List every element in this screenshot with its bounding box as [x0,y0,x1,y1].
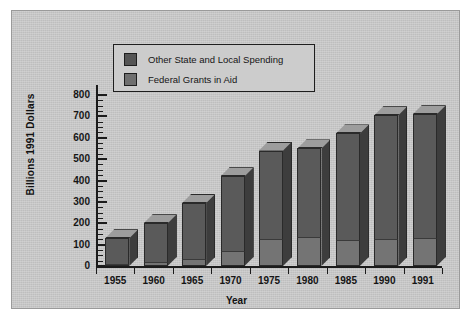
y-tick-minor [98,154,103,155]
bar-segment-other [144,223,168,266]
bar-segment-federal [259,239,283,266]
y-tick-minor [98,207,103,208]
x-tick [96,268,97,274]
chart-plate: Billions 1991 Dollars Year 0100200300400… [11,10,460,309]
x-tick-label-1960: 1960 [132,275,176,286]
y-tick-minor [98,239,103,240]
y-tick-major [98,180,107,182]
x-tick [365,268,366,274]
y-tick-minor [98,234,103,235]
x-tick-label-1975: 1975 [247,275,291,286]
bar-segment-federal [144,262,168,266]
y-tick-major [98,201,107,203]
x-tick [288,268,289,274]
bar-side-face [206,194,215,266]
bar-segment-federal [221,251,245,266]
y-tick-minor [98,261,103,262]
y-tick-minor [98,250,103,251]
bar-segment-federal [336,240,360,266]
bar-1965 [182,194,206,266]
y-tick-minor [98,218,103,219]
y-tick-label: 500 [56,154,90,164]
y-tick-major [98,137,107,139]
chart-screenshot: Billions 1991 Dollars Year 0100200300400… [0,0,471,320]
x-tick-label-1991: 1991 [401,275,445,286]
y-tick-minor [98,255,103,256]
bar-1985 [336,124,360,266]
y-tick-label: 0 [56,261,90,271]
y-tick-label: 300 [56,197,90,207]
y-tick-minor [98,127,103,128]
bar-segment-federal [413,238,437,266]
x-tick [173,268,174,274]
y-tick-minor [98,186,103,187]
chart-legend: Other State and Local Spending Federal G… [113,44,315,92]
bar-side-face [168,214,177,266]
y-tick-major [98,222,107,224]
legend-label-federal: Federal Grants in Aid [148,74,237,85]
bar-side-face [321,139,330,266]
bar-1970 [221,167,245,266]
y-tick-minor [98,191,103,192]
y-axis-title: Billions 1991 Dollars [25,85,36,205]
bar-side-face [245,167,254,266]
x-tick [134,268,135,274]
bar-segment-federal [374,239,398,266]
y-tick-minor [98,164,103,165]
bar-side-face [360,124,369,266]
y-tick-label: 400 [56,176,90,186]
x-tick-label-1990: 1990 [362,275,406,286]
x-tick [250,268,251,274]
bar-1990 [374,106,398,266]
bar-segment-other [182,203,206,266]
y-tick-label: 800 [56,90,90,100]
legend-item-federal-grants-in-aid: Federal Grants in Aid [124,71,237,87]
bar-1955 [105,229,129,266]
bar-side-face [398,106,407,266]
y-tick-minor [98,170,103,171]
y-tick-label: 700 [56,111,90,121]
bar-side-face [437,105,446,266]
bar-1991 [413,105,437,266]
bar-segment-federal [297,237,321,266]
legend-swatch-icon-other [124,53,137,66]
y-tick-minor [98,213,103,214]
bar-segment-federal [105,264,129,266]
y-tick-minor [98,197,103,198]
y-tick-minor [98,122,103,123]
x-tick-label-1980: 1980 [285,275,329,286]
bar-1975 [259,142,283,266]
y-tick-label: 200 [56,218,90,228]
y-tick-label: 100 [56,240,90,250]
x-tick-label-1970: 1970 [209,275,253,286]
y-tick-minor [98,175,103,176]
x-tick-label-1985: 1985 [324,275,368,286]
y-tick-minor [98,132,103,133]
x-tick [442,268,443,274]
bar-segment-federal [182,259,206,266]
y-tick-minor [98,100,103,101]
bar-1960 [144,214,168,266]
x-axis-title: Year [12,295,461,306]
bar-1980 [297,139,321,266]
legend-swatch-icon-federal [124,73,137,86]
y-tick-minor [98,111,103,112]
y-tick-label: 600 [56,133,90,143]
x-axis-line [96,266,442,268]
y-tick-minor [98,229,103,230]
legend-label-other: Other State and Local Spending [148,54,283,65]
x-tick [327,268,328,274]
x-tick-label-1965: 1965 [170,275,214,286]
y-tick-major [98,115,107,117]
y-tick-minor [98,148,103,149]
x-tick-label-1955: 1955 [93,275,137,286]
y-tick-major [98,158,107,160]
y-tick-major [98,94,107,96]
bar-side-face [283,142,292,266]
legend-item-other-state-and-local-spending: Other State and Local Spending [124,51,283,67]
y-tick-minor [98,143,103,144]
x-tick [211,268,212,274]
x-tick [404,268,405,274]
y-tick-minor [98,106,103,107]
bar-segment-other [105,238,129,266]
